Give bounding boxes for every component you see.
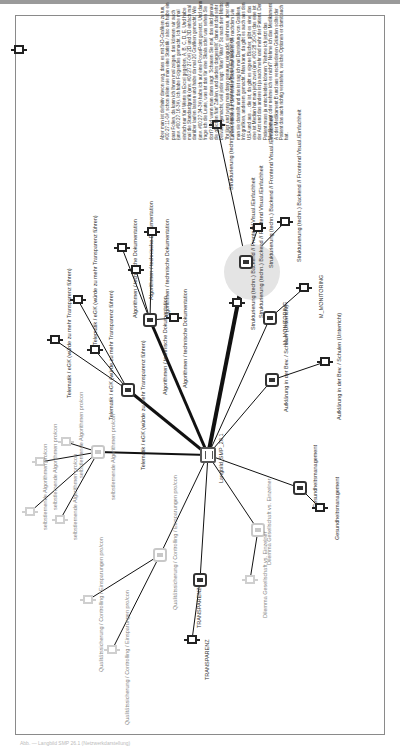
central-hub-label: Langbild_SMP_26.1 — [218, 433, 224, 483]
node-label-auf-hub: Aufklärung in der Bev. / Schulen (Unterr… — [283, 305, 289, 412]
edge-dil-hub-dil-1 — [250, 530, 258, 580]
code-leaf-node-icon-tel-2[interactable] — [50, 335, 60, 344]
node-label-alg-2: Algorithmen / technische Dokumentation — [148, 201, 154, 300]
node-label-ges-1: Gesundheitsmanagement — [334, 477, 340, 540]
topic-hub-node-icon-auf-hub[interactable] — [265, 373, 279, 387]
code-leaf-node-icon-str-3[interactable] — [280, 217, 290, 226]
code-leaf-node-icon-tra-1[interactable] — [187, 635, 197, 644]
code-leaf-node-icon-dil-1[interactable] — [245, 575, 255, 584]
topic-hub-node-icon-ges-hub[interactable] — [293, 481, 307, 495]
node-label-qual-2: Qualitätssicherung / Controlling / Einsp… — [124, 590, 130, 725]
edge-center-dil-hub — [208, 455, 258, 530]
code-leaf-node-icon-sel-3[interactable] — [25, 507, 35, 516]
node-label-str-1: Strukturierung (techn.) Backend // Front… — [250, 178, 256, 330]
node-label-mon-1: M_MONITORING — [318, 275, 324, 318]
node-label-sel-hub: selbstlernende Algorithmen pro/con — [110, 414, 116, 500]
interview-quote-text: Aber man ist definitiv davon weg, dass e… — [160, 0, 290, 140]
topic-hub-node-icon-alg-hub[interactable] — [143, 313, 157, 327]
node-label-tra-hub: TRANSPARENZ — [196, 587, 202, 628]
code-leaf-node-icon-alg-4[interactable] — [169, 313, 179, 322]
node-label-auf-1: Aufklärung in der Bev. / Schulen (Unterr… — [336, 313, 342, 420]
code-leaf-node-icon-qual-1[interactable] — [83, 595, 93, 604]
node-label-ges-hub: Gesundheitsmanagement — [312, 445, 318, 508]
node-label-dil-1: Dilemma Gesellschaft vs. Einzelner — [262, 531, 268, 618]
node-label-sel-3: selbstlernende Algorithmen pro/con — [42, 444, 48, 530]
node-label-qual-1: Qualitätssicherung / Controlling / Einsp… — [98, 537, 104, 672]
code-leaf-node-icon-alg-3[interactable] — [147, 227, 157, 236]
edge-sel-hub-sel-1 — [40, 452, 98, 462]
code-leaf-node-icon-qual-2[interactable] — [107, 645, 117, 654]
node-label-str-hub: Strukturierung (techn.) Backend // Front… — [258, 166, 264, 318]
code-leaf-node-icon-text-anchor[interactable] — [14, 45, 24, 54]
node-label-tel-1: Telematik / eGK (würde zu mehr Transpare… — [92, 215, 98, 345]
edge-qual-hub-qual-2 — [112, 555, 160, 650]
code-leaf-node-icon-mon-1[interactable] — [299, 283, 309, 292]
node-label-alg-4: Algorithmen / technische Dokumentation — [182, 289, 188, 388]
node-label-sel-2: selbstlernende Algorithmen pro/con — [78, 392, 84, 478]
edge-tel-hub-tel-1 — [78, 300, 128, 390]
node-label-sel-1: selbstlernende Algorithmen pro/con — [52, 424, 58, 510]
node-label-tel-hub: Telematik / eGK (würde zu mehr Transpare… — [140, 340, 146, 470]
node-label-tra-1: TRANSPARENZ — [204, 639, 210, 680]
code-leaf-node-icon-ges-1[interactable] — [315, 503, 325, 512]
edge-center-alg-hub — [150, 320, 208, 455]
node-label-alg-3: Algorithmen / technische Dokumentation — [164, 219, 170, 318]
code-leaf-node-icon-str-1[interactable] — [232, 298, 242, 307]
topic-hub-node-icon-sel-hub[interactable] — [91, 445, 105, 459]
topic-hub-node-icon-tel-hub[interactable] — [121, 383, 135, 397]
code-leaf-node-icon-alg-2[interactable] — [131, 265, 141, 274]
code-leaf-node-icon-auf-1[interactable] — [320, 357, 330, 366]
node-label-str-3: Strukturierung (techn.) Backend // Front… — [296, 110, 302, 262]
topic-hub-node-icon-tra-hub[interactable] — [193, 573, 207, 587]
node-label-sel-4: selbstlernende Algorithmen pro/con — [72, 454, 78, 540]
code-leaf-node-icon-str-2[interactable] — [253, 223, 263, 232]
code-leaf-node-icon-sel-2[interactable] — [61, 437, 71, 446]
edge-auf-hub-auf-1 — [272, 362, 325, 380]
node-label-tel-2: Telematik / eGK (würde zu mehr Transpare… — [66, 268, 72, 398]
edge-center-qual-hub — [160, 455, 208, 555]
code-leaf-node-icon-sel-4[interactable] — [55, 515, 65, 524]
code-leaf-node-icon-tel-1[interactable] — [73, 295, 83, 304]
topic-hub-node-icon-qual-hub[interactable] — [153, 548, 167, 562]
topic-hub-node-icon-mon-hub[interactable] — [263, 311, 277, 325]
node-label-tel-3: Telematik / eGK (würde zu mehr Transpare… — [108, 290, 114, 420]
central-hub-node-icon[interactable] — [200, 447, 216, 463]
edge-center-tra-hub — [200, 455, 208, 580]
node-label-qual-hub: Qualitätssicherung / Controlling / Einsp… — [172, 475, 178, 610]
code-leaf-node-icon-tel-3[interactable] — [90, 345, 100, 354]
code-leaf-node-icon-alg-1[interactable] — [117, 243, 127, 252]
figure-caption: Abb. — Langbild SMP 26.1 (Netzwerkdarste… — [20, 740, 130, 746]
